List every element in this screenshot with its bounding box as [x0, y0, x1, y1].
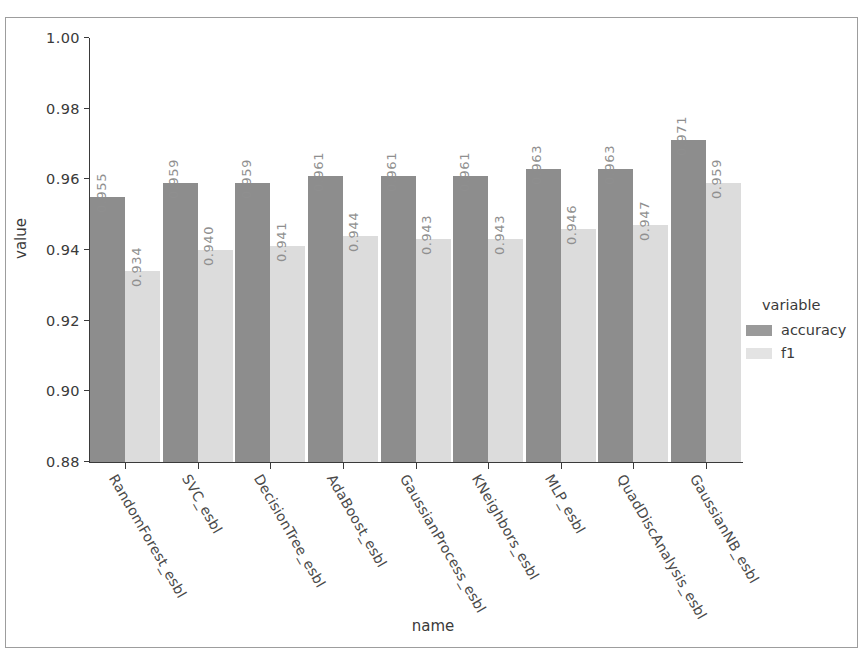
bar-f1: 0.944	[343, 236, 378, 462]
legend-title: variable	[762, 297, 850, 313]
y-axis-title: value	[12, 218, 30, 259]
y-tick-label: 0.96	[46, 169, 80, 189]
bar-value-label: 0.955	[95, 173, 108, 213]
bar-value-label: 0.944	[347, 212, 360, 252]
bar-value-label: 0.961	[458, 152, 471, 192]
bar-accuracy: 0.955	[90, 197, 125, 462]
bar-value-label: 0.963	[603, 145, 616, 185]
bar-accuracy: 0.961	[453, 176, 488, 462]
bar-value-label: 0.943	[420, 215, 433, 255]
bar-value-label: 0.946	[565, 205, 578, 245]
x-tick-mark	[125, 463, 126, 469]
y-tick-label: 0.98	[46, 99, 80, 119]
chart-page: 0.880.900.920.940.960.981.00 0.9550.9340…	[0, 0, 866, 663]
x-tick-mark	[270, 463, 271, 469]
x-tick-mark	[488, 463, 489, 469]
legend-label-f1: f1	[781, 345, 795, 361]
bar-f1: 0.934	[125, 271, 160, 462]
bar-value-label: 0.940	[202, 226, 215, 266]
y-tick-label: 0.90	[46, 381, 80, 401]
x-tick-mark	[633, 463, 634, 469]
bar-value-label: 0.959	[240, 159, 253, 199]
bar-f1: 0.946	[561, 229, 596, 462]
legend-swatch-accuracy	[746, 325, 772, 336]
x-axis-title: name	[0, 617, 866, 635]
bar-f1: 0.943	[488, 239, 523, 462]
bar-value-label: 0.961	[312, 152, 325, 192]
plot-area: 0.880.900.920.940.960.981.00 0.9550.9340…	[89, 38, 742, 462]
bar-value-label: 0.963	[530, 145, 543, 185]
y-tick-mark	[84, 249, 89, 250]
y-tick-label: 0.92	[46, 311, 80, 331]
x-tick-mark	[706, 463, 707, 469]
bar-value-label: 0.934	[130, 247, 143, 287]
bar-accuracy: 0.959	[235, 183, 270, 462]
y-tick-mark	[84, 320, 89, 321]
bar-value-label: 0.961	[385, 152, 398, 192]
y-tick-label: 0.88	[46, 452, 80, 472]
bar-value-label: 0.943	[493, 215, 506, 255]
bar-accuracy: 0.963	[598, 169, 633, 462]
legend-swatch-f1	[746, 348, 772, 359]
y-tick-mark	[84, 37, 89, 38]
bar-f1: 0.941	[270, 246, 305, 462]
bar-accuracy: 0.963	[526, 169, 561, 462]
x-tick-mark	[416, 463, 417, 469]
legend: variable accuracyf1	[746, 297, 850, 368]
bar-value-label: 0.947	[638, 201, 651, 241]
bar-f1: 0.959	[706, 183, 741, 462]
bar-value-label: 0.941	[275, 222, 288, 262]
bar-f1: 0.947	[633, 225, 668, 462]
x-tick-mark	[561, 463, 562, 469]
legend-item-f1[interactable]: f1	[746, 345, 850, 361]
legend-label-accuracy: accuracy	[781, 322, 846, 338]
y-tick-label: 1.00	[46, 28, 80, 48]
bar-value-label: 0.971	[675, 116, 688, 156]
bar-value-label: 0.959	[710, 159, 723, 199]
y-tick-mark	[84, 178, 89, 179]
x-tick-mark	[343, 463, 344, 469]
legend-item-accuracy[interactable]: accuracy	[746, 322, 850, 338]
y-tick-label: 0.94	[46, 240, 80, 260]
bar-accuracy: 0.961	[381, 176, 416, 462]
bar-f1: 0.940	[198, 250, 233, 462]
bar-accuracy: 0.961	[308, 176, 343, 462]
bar-accuracy: 0.959	[163, 183, 198, 462]
x-tick-mark	[198, 463, 199, 469]
y-tick-mark	[84, 461, 89, 462]
bar-accuracy: 0.971	[671, 140, 706, 462]
y-tick-mark	[84, 108, 89, 109]
bar-f1: 0.943	[416, 239, 451, 462]
y-tick-mark	[84, 390, 89, 391]
bar-value-label: 0.959	[167, 159, 180, 199]
legend-entries: accuracyf1	[746, 322, 850, 361]
